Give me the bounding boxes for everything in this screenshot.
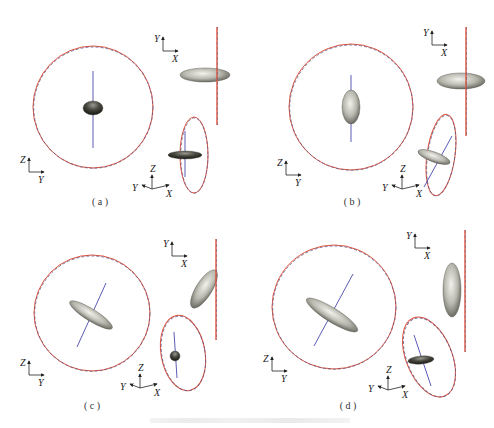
y-axis-arrow-icon [130,384,140,388]
y-axis-label: Y [368,383,375,394]
ellipsoid-projection-figure: ZYYXZXY( a )ZYYXZXY( b )ZYYXZXY( c )ZYYX… [0,0,494,428]
z-axis-label: Z [138,362,144,373]
panel-c: ZYYXZXY( c ) [20,238,222,412]
yx-axis-triad: YX [406,230,431,261]
zyx-axis-triad: ZXY [132,163,173,199]
zy-axis-triad: ZY [20,154,45,185]
x-axis-label: X [415,188,423,199]
zyx-axis-triad: ZXY [120,362,161,398]
horizontal-axis-label: Y [295,177,302,188]
subfigure-label: ( a ) [92,196,108,208]
vertical-axis-label: Y [163,238,170,249]
vertical-axis-label: Z [277,157,283,168]
z-axis-label: Z [150,163,156,174]
panel-a: ZYYXZXY( a ) [20,27,230,208]
vertical-axis-label: Y [423,27,430,38]
y-axis-label: Y [120,381,127,392]
small-projection-ellipse-solid [155,312,212,394]
zyx-axis-triad: ZXY [368,364,409,400]
vertical-axis-label: Y [406,230,413,241]
small-view-ellipsoid [408,355,435,365]
yx-axis-triad: YX [163,238,188,269]
horizontal-axis-label: X [440,47,448,58]
panel-d: ZYYXZXY( d ) [263,230,466,412]
small-projection-ellipse-dashed [156,313,212,395]
small-view-ellipsoid [416,146,451,167]
horizontal-axis-label: Y [38,174,45,185]
y-axis-label: Y [132,182,139,193]
zyx-axis-triad: ZXY [382,163,423,199]
x-axis-label: X [401,389,409,400]
zy-axis-triad: ZY [277,157,302,188]
y-axis-arrow-icon [392,185,402,189]
figure: ZYYXZXY( a )ZYYXZXY( b )ZYYXZXY( c )ZYYX… [0,0,494,428]
side-view-ellipsoid [437,73,485,89]
horizontal-axis-label: Y [281,373,288,384]
y-axis-label: Y [382,182,389,193]
yx-axis-triad: YX [154,33,179,64]
vertical-axis-label: Z [263,353,269,364]
subfigure-label: ( c ) [84,400,100,412]
zy-axis-triad: ZY [263,353,288,384]
y-axis-arrow-icon [142,185,152,189]
large-view-ellipsoid [83,101,103,115]
side-view-ellipsoid [180,68,230,82]
x-axis-label: X [153,387,161,398]
horizontal-axis-label: X [171,53,179,64]
z-axis-label: Z [386,364,392,375]
subfigure-label: ( d ) [340,400,357,412]
side-view-ellipsoid [186,266,223,312]
small-view-ellipsoid [170,351,180,361]
subfigure-label: ( b ) [344,196,361,208]
z-axis-label: Z [400,163,406,174]
vertical-axis-label: Z [20,154,26,165]
small-view-ellipsoid [168,151,202,159]
figure-caption [150,418,350,423]
y-axis-arrow-icon [378,386,388,390]
horizontal-axis-label: Y [38,377,45,388]
panels-group: ZYYXZXY( a )ZYYXZXY( b )ZYYXZXY( c )ZYYX… [20,27,485,412]
side-view-ellipsoid [443,263,461,317]
vertical-axis-label: Y [154,33,161,44]
horizontal-axis-label: X [180,258,188,269]
x-axis-label: X [165,188,173,199]
horizontal-axis-label: X [423,250,431,261]
yx-axis-triad: YX [423,27,448,58]
large-view-ellipsoid [342,90,360,124]
large-view-ellipsoid [303,293,361,337]
vertical-axis-label: Z [20,357,26,368]
large-view-ellipsoid [67,297,116,334]
panel-b: ZYYXZXY( b ) [277,27,485,208]
zy-axis-triad: ZY [20,357,45,388]
